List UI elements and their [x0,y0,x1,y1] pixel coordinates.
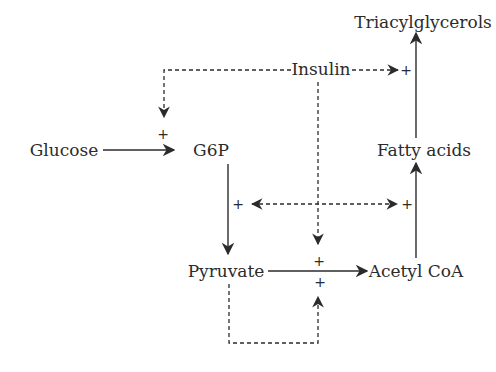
node-pyruvate: Pyruvate [188,261,265,281]
pathway-diagram: Triacylglycerols Insulin Glucose G6P Fat… [0,0,496,372]
node-glucose: Glucose [30,140,99,160]
node-triacylglycerols: Triacylglycerols [354,12,492,32]
plus-pyruvate-to-acetylcoa-bottom: + [314,274,326,290]
plus-acetylcoa-to-fatty-acids: + [401,196,413,212]
dashed-insulin-to-glucose-step [164,70,291,117]
dashed-pyruvate-feedforward [229,284,318,343]
node-acetyl-coa: Acetyl CoA [368,261,464,281]
plus-g6p-to-pyruvate: + [232,196,244,212]
node-insulin: Insulin [291,59,350,79]
plus-pyruvate-to-acetylcoa-top: + [313,253,325,269]
plus-glucose-to-g6p: + [157,126,169,142]
node-fatty-acids: Fatty acids [377,140,471,160]
node-g6p: G6P [193,140,229,160]
plus-insulin-to-tag: + [400,62,412,78]
